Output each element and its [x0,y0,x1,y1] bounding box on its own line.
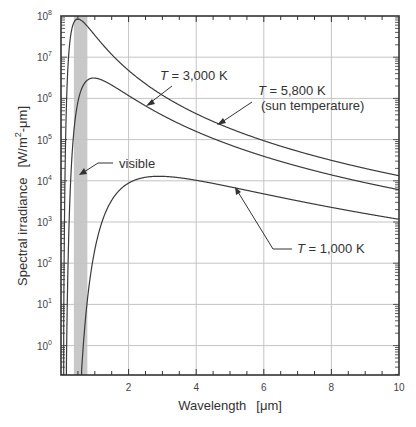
y-tick-label: 105 [37,133,52,146]
annotation-visible: visible [79,156,155,175]
x-tick-label: 8 [329,382,335,393]
x-tick-label: 2 [126,382,132,393]
y-tick-label: 106 [37,91,52,104]
blackbody-spectral-irradiance-chart: 246810100101102103104105106107108 Wavele… [0,0,416,427]
arrow-head-icon [217,118,226,125]
axis-ticks [61,16,399,375]
x-tick-label: 6 [261,382,267,393]
svg-text:(sun temperature): (sun temperature) [261,98,364,113]
y-tick-label: 103 [37,215,52,228]
y-tick-label: 104 [37,174,52,187]
curve-3000k [66,78,399,375]
y-tick-label: 102 [37,256,52,269]
y-tick-label: 107 [37,50,52,63]
grid-lines [61,16,399,375]
svg-text:T = 5,800 K: T = 5,800 K [258,83,326,98]
y-axis-title: Spectral irradiance[W/m2-μm] [13,106,30,286]
curves [64,19,399,375]
plot-frame [61,16,399,375]
tick-labels: 246810100101102103104105106107108 [37,9,405,393]
y-tick-label: 101 [37,297,52,310]
y-tick-label: 100 [37,339,52,352]
annotation-5800k: T = 5,800 K (sun temperature) [217,83,364,125]
x-tick-label: 10 [393,382,405,393]
x-axis-title: Wavelength[μm] [178,398,282,413]
annotation-3000k: T = 3,000 K [146,68,228,106]
svg-text:T = 3,000 K: T = 3,000 K [160,68,228,83]
svg-text:visible: visible [119,156,155,171]
x-tick-label: 4 [193,382,199,393]
svg-text:T = 1,000 K: T = 1,000 K [297,241,365,256]
y-tick-label: 108 [37,9,52,22]
